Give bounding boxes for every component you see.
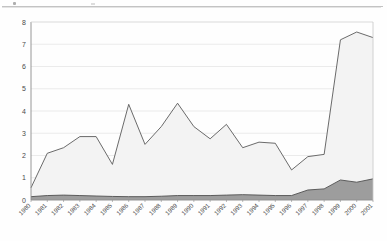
series-area-upper (31, 32, 373, 197)
x-tick-label: 1981 (33, 201, 48, 216)
x-tick-label: 1990 (180, 201, 195, 216)
y-tick-label: 7 (22, 41, 26, 48)
y-axis-tick-labels: 012345678 (22, 19, 26, 204)
x-tick-label: 1993 (229, 201, 244, 216)
x-tick-label: 1983 (66, 201, 81, 216)
x-tick-label: 1998 (310, 201, 325, 216)
x-tick-label: 1988 (147, 201, 162, 216)
x-tick-label: 1982 (50, 201, 65, 216)
y-tick-label: 1 (22, 174, 26, 181)
x-tick-label: 2001 (359, 201, 374, 216)
x-tick-label: 1992 (212, 201, 227, 216)
figure-container: 012345678 198019811982198319841985198619… (0, 0, 387, 241)
y-tick-label: 5 (22, 85, 26, 92)
x-tick-label: 1999 (326, 201, 341, 216)
stacked-area-chart: 012345678 198019811982198319841985198619… (0, 0, 387, 241)
x-tick-label: 1991 (196, 201, 211, 216)
x-tick-label: 1986 (115, 201, 130, 216)
y-tick-label: 3 (22, 130, 26, 137)
x-tick-label: 1980 (17, 201, 32, 216)
x-tick-label: 1994 (245, 201, 260, 216)
y-tick-label: 2 (22, 152, 26, 159)
x-tick-label: 2000 (343, 201, 358, 216)
x-tick-label: 1987 (131, 201, 146, 216)
series-areas (31, 32, 373, 200)
x-tick-label: 1997 (294, 201, 309, 216)
y-tick-label: 6 (22, 63, 26, 70)
x-tick-label: 1989 (164, 201, 179, 216)
plot-area: 012345678 198019811982198319841985198619… (0, 0, 387, 241)
y-tick-label: 8 (22, 19, 26, 26)
x-axis-tick-labels: 1980198119821983198419851986198719881989… (17, 201, 374, 216)
x-tick-label: 1985 (98, 201, 113, 216)
y-tick-label: 4 (22, 108, 26, 115)
x-tick-label: 1984 (82, 201, 97, 216)
x-tick-label: 1995 (261, 201, 276, 216)
x-tick-label: 1996 (278, 201, 293, 216)
